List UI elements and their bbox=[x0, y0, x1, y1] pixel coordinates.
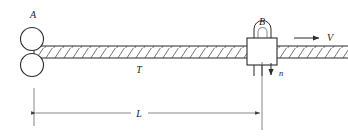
upper-roller bbox=[21, 28, 44, 51]
label-bar: T bbox=[136, 64, 143, 75]
label-die-block: B bbox=[259, 16, 265, 27]
bar-hatch-fill bbox=[34, 46, 348, 58]
label-velocity: V bbox=[327, 32, 335, 43]
dimension-l-group bbox=[34, 62, 262, 130]
label-normal-force: n bbox=[279, 68, 283, 78]
label-length: L bbox=[135, 108, 142, 119]
block-body bbox=[247, 38, 277, 65]
bar-drawing-diagram: A B T L V n bbox=[0, 0, 348, 136]
figure-container: A B T L V n bbox=[0, 0, 348, 136]
label-roller-assembly: A bbox=[29, 9, 37, 20]
lower-roller bbox=[21, 54, 44, 77]
block-handle-inner bbox=[258, 27, 267, 39]
workpiece-bar bbox=[34, 46, 348, 58]
